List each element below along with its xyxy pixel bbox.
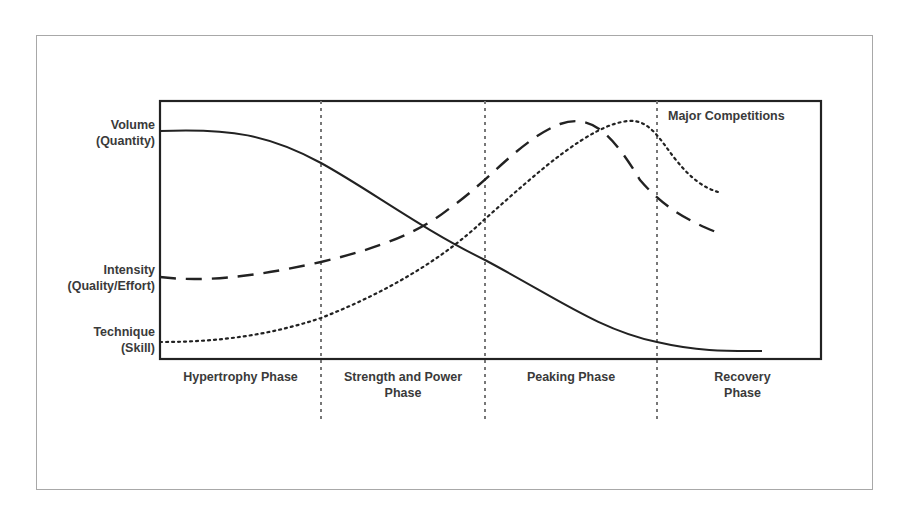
y-label-volume-line2: (Quantity) [96,133,155,149]
y-label-technique: Technique (Skill) [93,324,155,356]
phase-recovery-line1: Recovery [657,369,828,385]
y-label-volume: Volume (Quantity) [96,117,155,149]
phase-label-strength-power: Strength and Power Phase [321,369,485,401]
phase-label-recovery: Recovery Phase [657,369,828,401]
y-label-intensity-line2: (Quality/Effort) [68,278,156,294]
y-label-technique-line2: (Skill) [93,340,155,356]
phase-peaking-line1: Peaking Phase [485,369,657,385]
phase-strength-line2: Phase [321,385,485,401]
phase-label-hypertrophy: Hypertrophy Phase [160,369,321,385]
technique-line [160,121,718,342]
phase-label-peaking: Peaking Phase [485,369,657,385]
periodization-chart [0,0,907,521]
y-label-intensity-line1: Intensity [68,262,156,278]
plot-area-border [160,101,821,359]
y-label-technique-line1: Technique [93,324,155,340]
y-label-intensity: Intensity (Quality/Effort) [68,262,156,294]
phase-hypertrophy-line1: Hypertrophy Phase [160,369,321,385]
major-competitions-label: Major Competitions [668,109,785,123]
phase-recovery-line2: Phase [657,385,828,401]
y-label-volume-line1: Volume [96,117,155,133]
phase-strength-line1: Strength and Power [321,369,485,385]
